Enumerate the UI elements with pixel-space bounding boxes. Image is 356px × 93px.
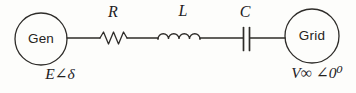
generator-node-label: Gen: [15, 31, 67, 46]
inductor-label: L: [168, 2, 198, 20]
circuit-diagram: Gen Grid R L C E∠δ V∞ ∠0⁰: [0, 0, 356, 93]
resistor-symbol: [100, 32, 127, 44]
wire-inductor-to-capacitor: [200, 38, 243, 39]
resistor-label: R: [98, 3, 128, 21]
grid-node-label: Grid: [286, 28, 338, 43]
generator-voltage-phasor-label: E∠δ: [30, 65, 90, 83]
wire-resistor-to-inductor: [127, 38, 158, 39]
inductor-symbol: [158, 34, 200, 39]
grid-voltage-phasor-label: V∞ ∠0⁰: [283, 64, 351, 82]
capacitor-label: C: [230, 3, 260, 21]
